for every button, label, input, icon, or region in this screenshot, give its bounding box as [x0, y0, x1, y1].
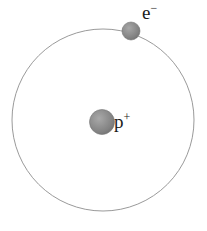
electron-label: e− — [142, 3, 157, 22]
electron-charge-sign: − — [150, 1, 157, 15]
proton-charge-sign: + — [124, 110, 131, 124]
proton-symbol: p — [114, 111, 124, 132]
proton-label: p+ — [114, 112, 130, 131]
hydrogen-atom-diagram: p+ e− — [0, 0, 207, 231]
proton-nucleus-sphere — [90, 110, 115, 135]
electron-sphere — [122, 22, 140, 40]
atom-diagram-canvas — [0, 0, 207, 231]
